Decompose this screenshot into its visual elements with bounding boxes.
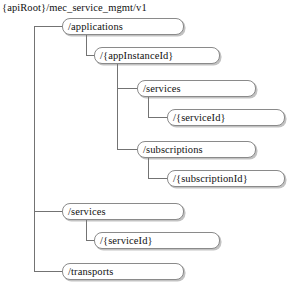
tree-node-appInstanceId: /{appInstanceId} xyxy=(94,47,220,64)
tree-node-label: /{serviceId} xyxy=(168,112,226,124)
tree-node-subscriptionId: /{subscriptionId} xyxy=(167,170,285,187)
tree-node-label: /subscriptions xyxy=(138,144,203,156)
tree-node-applications: /applications xyxy=(62,18,184,35)
tree-node-services: /services xyxy=(137,80,256,97)
tree-node-label: /services xyxy=(63,206,106,218)
resource-tree-diagram: {apiRoot}/mec_service_mgmt/v1 /applicati… xyxy=(0,0,291,295)
tree-node-serviceId-root: /{serviceId} xyxy=(94,232,220,249)
tree-node-services-root: /services xyxy=(62,203,184,220)
tree-node-label: /applications xyxy=(63,21,123,33)
tree-node-label: /{subscriptionId} xyxy=(168,173,248,185)
tree-node-label: /{appInstanceId} xyxy=(95,50,174,62)
tree-node-serviceId: /{serviceId} xyxy=(167,109,285,126)
tree-node-transports: /transports xyxy=(62,263,184,280)
tree-node-subscriptions: /subscriptions xyxy=(137,141,256,158)
tree-node-label: /services xyxy=(138,83,181,95)
tree-node-label: /{serviceId} xyxy=(95,235,153,247)
tree-node-label: /transports xyxy=(63,266,113,278)
